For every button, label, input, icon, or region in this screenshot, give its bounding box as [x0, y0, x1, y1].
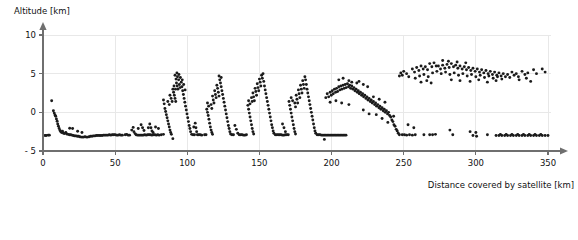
data-point — [294, 133, 297, 136]
data-point — [166, 100, 169, 103]
data-point — [456, 61, 459, 64]
data-point — [181, 85, 184, 88]
data-point — [497, 71, 500, 74]
data-point — [215, 84, 218, 87]
data-point — [304, 78, 307, 81]
data-point — [305, 83, 308, 86]
data-point — [440, 72, 443, 75]
data-point — [464, 61, 467, 64]
x-tick-label: 150 — [251, 158, 267, 168]
data-point — [430, 82, 433, 85]
x-axis-title: Distance covered by satellite [km] — [428, 180, 574, 190]
data-point — [205, 108, 208, 111]
data-point — [362, 83, 365, 86]
data-point — [474, 131, 477, 134]
data-point — [227, 124, 230, 127]
data-point — [391, 120, 394, 123]
data-point — [441, 64, 444, 67]
data-point — [539, 133, 542, 136]
data-point — [178, 83, 181, 86]
data-point — [263, 85, 266, 88]
data-point — [226, 116, 229, 119]
data-point — [207, 118, 210, 121]
data-point — [375, 113, 378, 116]
data-point — [368, 112, 371, 115]
data-point — [164, 110, 167, 113]
x-tick-label: 300 — [468, 158, 484, 168]
data-point — [259, 81, 262, 84]
data-point — [479, 74, 482, 77]
data-point — [547, 134, 550, 137]
data-point — [327, 95, 330, 98]
data-point — [298, 96, 301, 99]
data-point — [499, 133, 502, 136]
data-point — [254, 87, 257, 90]
data-point — [384, 101, 387, 104]
data-point — [493, 71, 496, 74]
data-point — [301, 92, 304, 95]
data-point — [535, 72, 538, 75]
data-point — [257, 86, 260, 89]
data-point — [495, 134, 498, 137]
data-point — [250, 123, 253, 126]
data-point — [491, 73, 494, 76]
data-point — [453, 71, 456, 74]
data-point — [466, 75, 469, 78]
data-point — [179, 76, 182, 79]
data-point — [463, 65, 466, 68]
data-point — [516, 133, 519, 136]
data-point — [177, 73, 180, 76]
data-point — [68, 127, 71, 130]
data-point — [345, 134, 348, 137]
data-point — [189, 130, 192, 133]
data-point — [207, 105, 210, 108]
data-point — [504, 75, 507, 78]
data-point — [435, 70, 438, 73]
data-point — [140, 123, 143, 126]
data-point — [526, 71, 529, 74]
data-point — [340, 102, 343, 105]
data-point — [398, 133, 401, 136]
data-point — [422, 73, 425, 76]
data-point — [188, 124, 191, 127]
data-point — [208, 122, 211, 125]
data-point — [269, 116, 272, 119]
data-point — [306, 88, 309, 91]
data-point — [495, 79, 498, 82]
data-point — [486, 133, 489, 136]
data-point — [521, 70, 524, 73]
data-point — [163, 107, 166, 110]
data-point — [290, 96, 293, 99]
data-point — [174, 97, 177, 100]
data-point — [258, 78, 261, 81]
data-point — [218, 95, 221, 98]
data-point — [477, 78, 480, 81]
data-point — [261, 77, 264, 80]
data-point — [525, 77, 528, 80]
data-point — [216, 87, 219, 90]
data-point — [469, 80, 472, 83]
data-point — [262, 72, 265, 75]
data-point — [372, 95, 375, 98]
data-point — [414, 77, 417, 80]
data-point — [412, 126, 415, 129]
data-point — [186, 116, 189, 119]
data-point — [502, 72, 505, 75]
data-point — [472, 134, 475, 137]
data-point — [450, 62, 453, 65]
data-point — [270, 123, 273, 126]
data-point — [362, 109, 365, 112]
data-point — [407, 123, 410, 126]
data-point — [443, 67, 446, 70]
data-point — [186, 112, 189, 115]
tick-labels-group: 050100150200250300350- 50510 — [25, 30, 556, 168]
data-point — [308, 103, 311, 106]
data-point — [207, 114, 210, 117]
y-tick-label: 10 — [25, 30, 36, 40]
data-point — [475, 135, 478, 138]
data-point — [428, 133, 431, 136]
data-point — [172, 91, 175, 94]
data-point — [223, 105, 226, 108]
data-point — [309, 107, 312, 110]
data-point — [149, 126, 152, 129]
